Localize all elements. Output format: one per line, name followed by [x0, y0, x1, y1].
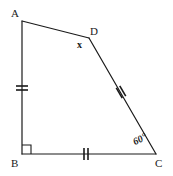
side-ad [22, 21, 89, 38]
right-angle-marker-b [22, 145, 31, 154]
vertex-label-c: C [155, 158, 162, 169]
angle-label-d: x [77, 40, 82, 50]
geometry-diagram: A B C D x 60° [0, 0, 173, 176]
vertex-label-a: A [11, 8, 19, 19]
quadrilateral-figure [0, 0, 173, 176]
vertex-label-d: D [90, 26, 98, 37]
vertex-label-b: B [11, 158, 18, 169]
